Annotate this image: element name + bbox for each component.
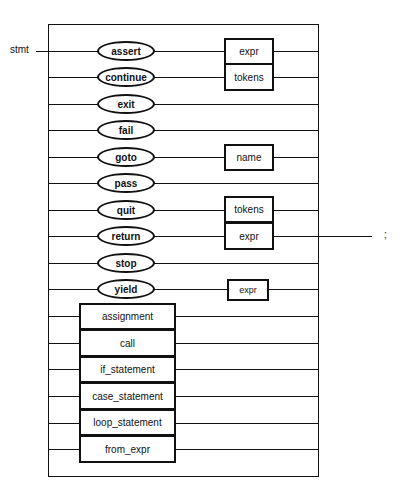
right-rail xyxy=(318,24,319,476)
terminator: ; xyxy=(384,229,387,240)
keyword-continue: continue xyxy=(97,67,155,87)
left-rail xyxy=(48,24,49,476)
nonterminal-loop-statement: loop_statement xyxy=(79,409,176,436)
row-line xyxy=(48,77,318,78)
row-line xyxy=(48,130,318,131)
row-line xyxy=(48,51,318,52)
row-line xyxy=(48,289,318,290)
keyword-goto: goto xyxy=(97,147,155,167)
keyword-fail: fail xyxy=(97,120,155,140)
entry-line xyxy=(36,51,48,52)
keyword-quit: quit xyxy=(97,200,155,220)
quit-tokens-box: tokens xyxy=(224,196,274,223)
assert-expr-box: expr xyxy=(224,38,274,65)
return-expr-box: expr xyxy=(224,222,274,250)
nonterminal-call: call xyxy=(79,329,176,357)
keyword-pass: pass xyxy=(97,173,155,193)
bottom-bypass xyxy=(48,476,319,477)
goto-name-box: name xyxy=(224,144,274,171)
exit-line xyxy=(318,236,372,237)
keyword-return: return xyxy=(97,226,155,246)
row-line xyxy=(48,183,318,184)
row-line xyxy=(48,104,318,105)
keyword-exit: exit xyxy=(97,94,155,114)
keyword-stop: stop xyxy=(97,253,155,273)
nonterminal-case-statement: case_statement xyxy=(79,382,176,410)
rule-name: stmt xyxy=(10,44,29,55)
row-line xyxy=(48,263,318,264)
row-line xyxy=(48,157,318,158)
nonterminal-assignment: assignment xyxy=(79,303,176,330)
keyword-assert: assert xyxy=(97,41,155,61)
nonterminal-from-expr: from_expr xyxy=(79,435,176,463)
row-line xyxy=(48,210,318,211)
continue-tokens-box: tokens xyxy=(224,63,274,91)
top-bypass xyxy=(48,24,319,25)
row-line xyxy=(48,236,318,237)
nonterminal-if-statement: if_statement xyxy=(79,356,176,383)
keyword-yield: yield xyxy=(97,279,155,299)
yield-expr-box: expr xyxy=(227,279,269,301)
